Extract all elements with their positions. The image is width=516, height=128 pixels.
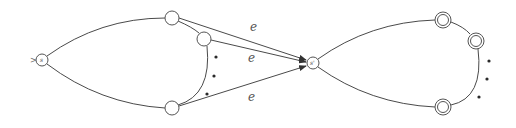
accepting-state-f3: [435, 99, 451, 115]
state-q1: [165, 11, 179, 25]
edge-sprime-to-f1: [318, 20, 435, 59]
epsilon-edge-q2: [211, 40, 306, 62]
accepting-state-f2: [468, 33, 484, 49]
epsilon-label-2: e: [248, 51, 255, 65]
edge-f2-to-f3-boundary: [451, 49, 479, 105]
state-s: s: [36, 54, 48, 66]
state-s-prime-label: s': [310, 59, 315, 66]
edge-s-to-q1: [47, 18, 165, 56]
edge-sprime-to-f3: [318, 67, 435, 107]
state-q2: [197, 32, 211, 46]
state-s-label: s: [40, 56, 43, 63]
state-q3: [165, 101, 179, 115]
automaton-diagram: > s s': [0, 0, 516, 128]
epsilon-label-3: e: [248, 90, 255, 104]
epsilon-edge-q3: [179, 66, 306, 106]
edge-f1-to-f2: [451, 22, 470, 34]
epsilon-label-1: e: [250, 20, 257, 34]
state-s-prime: s': [307, 57, 319, 69]
edge-s-to-q3: [47, 64, 165, 108]
accepting-state-f1: [435, 12, 451, 28]
edge-q2-to-q3-boundary: [178, 46, 208, 105]
edge-q1-to-q2: [178, 21, 199, 33]
